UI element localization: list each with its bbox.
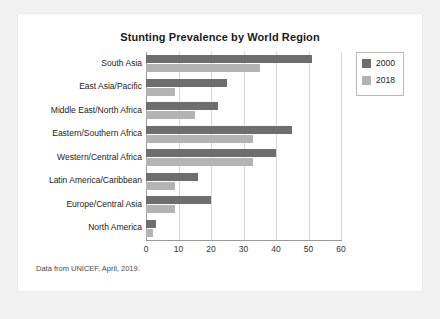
x-axis-tick-label: 0 <box>144 244 149 254</box>
x-axis-tick-label: 10 <box>174 244 183 254</box>
bar-2018 <box>146 64 260 72</box>
chart-title: Stunting Prevalence by World Region <box>18 31 422 43</box>
bar-2018 <box>146 205 175 213</box>
legend-entry: 2018 <box>362 75 403 85</box>
bar-2000 <box>146 79 227 87</box>
bar-group <box>146 196 341 213</box>
plot-area <box>146 52 341 240</box>
bar-2000 <box>146 149 276 157</box>
bar-2000 <box>146 220 156 228</box>
x-axis-tick-label: 20 <box>206 244 215 254</box>
bar-2018 <box>146 229 153 237</box>
legend-entry: 2000 <box>362 58 403 68</box>
bar-group <box>146 220 341 237</box>
legend-swatch-2000-icon <box>362 59 371 68</box>
y-axis-label: Middle East/North Africa <box>20 105 142 115</box>
gridline <box>341 52 342 240</box>
bar-2018 <box>146 135 253 143</box>
bar-group <box>146 126 341 143</box>
x-axis-line <box>146 240 342 241</box>
legend-swatch-2018-icon <box>362 76 371 85</box>
bar-2000 <box>146 55 312 63</box>
bar-group <box>146 55 341 72</box>
bar-2018 <box>146 88 175 96</box>
y-axis-label: Latin America/Caribbean <box>20 175 142 185</box>
chart-legend: 2000 2018 <box>356 52 404 96</box>
bar-2000 <box>146 196 211 204</box>
y-axis-label: Western/Central Africa <box>20 152 142 162</box>
bar-group <box>146 173 341 190</box>
bar-group <box>146 79 341 96</box>
chart-card: Stunting Prevalence by World Region Sout… <box>18 14 422 291</box>
legend-label: 2000 <box>376 58 395 68</box>
bar-2000 <box>146 126 292 134</box>
bar-2018 <box>146 158 253 166</box>
y-axis-label: Europe/Central Asia <box>20 199 142 209</box>
bar-group <box>146 102 341 119</box>
chart-screenshot: Stunting Prevalence by World Region Sout… <box>0 0 440 319</box>
x-axis-tick-label: 30 <box>239 244 248 254</box>
y-axis-label: South Asia <box>20 58 142 68</box>
legend-label: 2018 <box>376 75 395 85</box>
y-axis-category-labels: South AsiaEast Asia/PacificMiddle East/N… <box>18 52 142 240</box>
bar-group <box>146 149 341 166</box>
bar-2000 <box>146 173 198 181</box>
y-axis-label: East Asia/Pacific <box>20 81 142 91</box>
bar-2000 <box>146 102 218 110</box>
x-axis-tick-label: 40 <box>271 244 280 254</box>
chart-footnote: Data from UNICEF, April, 2019. <box>36 264 140 273</box>
x-axis-tick-label: 50 <box>304 244 313 254</box>
y-axis-label: North America <box>20 222 142 232</box>
y-axis-label: Eastern/Southern Africa <box>20 128 142 138</box>
bar-2018 <box>146 182 175 190</box>
x-axis-tick-label: 60 <box>336 244 345 254</box>
bar-2018 <box>146 111 195 119</box>
